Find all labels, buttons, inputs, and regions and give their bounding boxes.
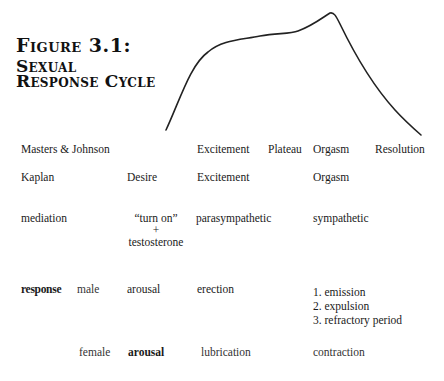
mj-phase-resolution: Resolution <box>375 143 425 156</box>
kaplan-phase-excitement: Excitement <box>197 171 249 184</box>
male-excitement-erection: erection <box>197 283 234 296</box>
female-orgasm-contraction: contraction <box>313 346 365 359</box>
row-label-response: response <box>21 283 61 296</box>
mj-phase-plateau: Plateau <box>268 143 302 156</box>
mediation-desire: “turn on” + testosterone <box>124 212 188 249</box>
male-orgasm-item-1: 1. emission <box>313 285 402 299</box>
response-sex-female: female <box>79 346 110 359</box>
mediation-orgasm: sympathetic <box>313 212 369 225</box>
response-curve <box>0 0 444 140</box>
female-desire-arousal: arousal <box>128 346 164 359</box>
mj-phase-orgasm: Orgasm <box>313 143 349 156</box>
female-excitement-lubrication: lubrication <box>201 346 251 359</box>
mediation-excitement: parasympathetic <box>196 212 271 225</box>
male-orgasm-item-3: 3. refractory period <box>313 313 402 327</box>
male-orgasm-item-2: 2. expulsion <box>313 299 402 313</box>
mediation-desire-testosterone: testosterone <box>124 236 188 249</box>
response-sex-male: male <box>77 283 99 296</box>
response-curve-line <box>166 13 421 135</box>
row-label-mediation: mediation <box>21 212 67 225</box>
mj-phase-excitement: Excitement <box>197 143 249 156</box>
male-desire-arousal: arousal <box>127 283 160 296</box>
kaplan-phase-desire: Desire <box>127 171 157 184</box>
row-label-masters-johnson: Masters & Johnson <box>21 143 110 156</box>
row-label-kaplan: Kaplan <box>21 171 54 184</box>
kaplan-phase-orgasm: Orgasm <box>313 171 349 184</box>
male-orgasm-list: 1. emission 2. expulsion 3. refractory p… <box>313 285 402 327</box>
